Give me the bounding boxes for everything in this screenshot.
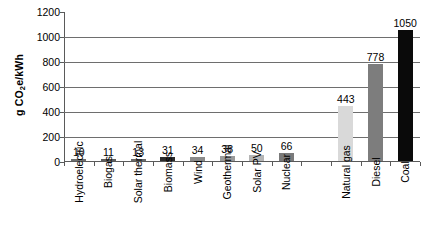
y-axis-tick-mark bbox=[60, 12, 64, 13]
bar-value-label: 778 bbox=[351, 52, 401, 63]
bar-value-label: 443 bbox=[321, 94, 371, 105]
y-axis-tick-mark bbox=[60, 87, 64, 88]
y-axis-tick-mark bbox=[60, 112, 64, 113]
y-axis-title: g CO2e/kWh bbox=[10, 0, 28, 170]
y-axis-tick-label: 400 bbox=[28, 107, 60, 117]
y-axis-tick-label: 1000 bbox=[28, 32, 60, 42]
bar-chart: g CO2e/kWh 020040060080010001200 1011133… bbox=[0, 0, 438, 246]
bar bbox=[398, 30, 413, 161]
gridline bbox=[64, 112, 420, 113]
gridline bbox=[64, 87, 420, 88]
x-axis-category-label-text: Coal bbox=[399, 161, 411, 183]
gridline bbox=[64, 37, 420, 38]
x-axis-category-label-text: Nuclear bbox=[281, 154, 293, 190]
y-axis-tick-label: 200 bbox=[28, 132, 60, 142]
y-axis-tick-label: 800 bbox=[28, 57, 60, 67]
y-axis-tick-labels: 020040060080010001200 bbox=[28, 12, 60, 162]
y-axis-title-prefix: g CO bbox=[13, 90, 25, 116]
y-axis-tick-label: 600 bbox=[28, 82, 60, 92]
plot-area: 10111331343850664437781050 bbox=[64, 12, 420, 162]
y-axis-title-suffix: e/kWh bbox=[13, 54, 25, 86]
bar bbox=[368, 64, 383, 161]
y-axis-tick-mark bbox=[60, 62, 64, 63]
x-axis-category-label: Coal bbox=[366, 166, 438, 244]
bar-value-label: 66 bbox=[262, 141, 312, 152]
bar-value-label: 1050 bbox=[380, 18, 430, 29]
x-axis-category-labels: HydroelectricBiogasSolar thermalBiomassW… bbox=[64, 166, 420, 246]
y-axis-title-subscript: 2 bbox=[18, 86, 27, 90]
y-axis-tick-mark bbox=[60, 137, 64, 138]
gridline bbox=[64, 137, 420, 138]
y-axis-tick-mark bbox=[60, 37, 64, 38]
y-axis-tick-label: 1200 bbox=[28, 7, 60, 17]
